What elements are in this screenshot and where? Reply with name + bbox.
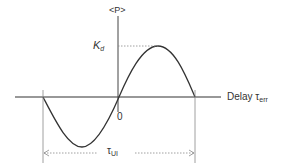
x-axis-label-sub: err bbox=[259, 96, 268, 103]
phase-detector-characteristic-diagram: <P> Kd 0 Delay τerr τUI bbox=[0, 0, 284, 168]
diagram-canvas bbox=[0, 0, 284, 168]
period-label-sub: UI bbox=[111, 150, 118, 157]
period-label: τUI bbox=[107, 146, 118, 157]
peak-label-sub: d bbox=[100, 45, 104, 52]
x-axis-label: Delay τerr bbox=[227, 92, 268, 103]
peak-label: Kd bbox=[93, 40, 104, 52]
origin-label: 0 bbox=[117, 112, 123, 122]
y-axis-label: <P> bbox=[109, 6, 126, 15]
x-axis-label-main: Delay τ bbox=[227, 91, 259, 102]
